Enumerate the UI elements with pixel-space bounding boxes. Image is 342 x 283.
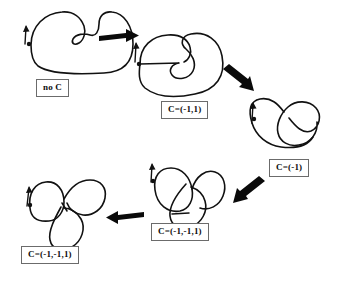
orientation-marker-step-4 xyxy=(149,163,156,183)
transition-arrow-3-4 xyxy=(233,176,265,203)
knot-curve-step-3 xyxy=(250,99,319,148)
knot-curve-step-1 xyxy=(31,12,133,74)
crossing-dash-step-4 xyxy=(172,213,189,214)
transition-arrow-4-5 xyxy=(106,211,144,224)
orientation-marker-step-1 xyxy=(23,25,31,46)
transition-arrow-2-3 xyxy=(223,64,254,91)
step-label-3: C=(-1) xyxy=(269,159,309,177)
step-label-1: no C xyxy=(36,79,69,97)
knot-curve-step-2 xyxy=(139,33,223,96)
knot-sequence-figure: no C C=(-1,1) C=(-1) C=(-1,-1,1) C=(-1,-… xyxy=(0,0,342,283)
orientation-marker-step-2 xyxy=(133,42,141,66)
step-label-5: C=(-1,-1,1) xyxy=(21,246,79,264)
orientation-marker-step-5 xyxy=(26,186,33,207)
knot-curve-step-5 xyxy=(30,180,106,250)
step-label-4: C=(-1,-1,1) xyxy=(151,223,209,241)
knot-curve-step-4 xyxy=(155,168,225,228)
step-label-2: C=(-1,1) xyxy=(161,101,208,119)
